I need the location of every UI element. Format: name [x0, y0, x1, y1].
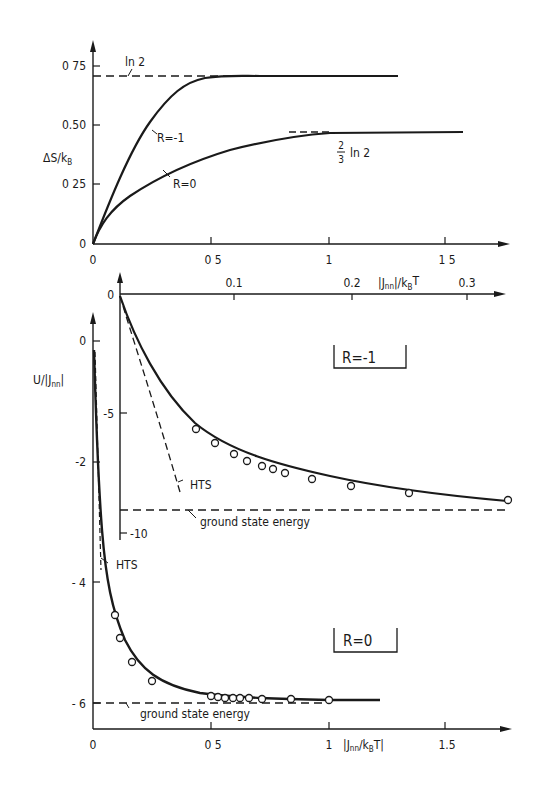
- bottom-hts-label: HTS: [116, 558, 138, 572]
- y-tick-025: 0 25: [62, 177, 86, 191]
- y-axis-arrow-icon: [90, 40, 96, 52]
- inset-y-tick-0: 0: [107, 288, 114, 302]
- curve-r-0: [93, 132, 463, 244]
- bottom-x-tick-15: 1.5: [438, 738, 455, 752]
- bottom-data-points: [112, 612, 333, 704]
- inset-y-tick-minus5: -5: [103, 407, 114, 421]
- y-tick-050: 0.50: [62, 118, 86, 132]
- frac-ln2-label: ln 2: [350, 146, 370, 160]
- inset-data-points: [193, 426, 512, 504]
- entropy-plot: [90, 40, 510, 247]
- inset-ground-state-label: ground state energy: [200, 515, 311, 529]
- frac-denominator: 3: [338, 154, 344, 165]
- inset-y-axis-arrow-icon: [117, 272, 123, 283]
- bottom-y-tick-minus4: - 4: [72, 576, 86, 590]
- figure: 0 0 25 0.50 0 75 ΔS/kB 0 0 5 1 1 5 ln 2 …: [0, 0, 545, 790]
- r-minus-1-box-label: R=-1: [342, 349, 376, 367]
- y-axis-label: ΔS/kB: [43, 151, 72, 167]
- inset-plot-labels: 0.1 0.2 0.3 |Jnn|/kBT 0 -5 -10 HTS groun…: [103, 274, 475, 541]
- inset-x-tick-02: 0.2: [343, 276, 360, 290]
- r-minus-1-label: R=-1: [157, 131, 184, 145]
- bottom-y-tick-0: 0: [79, 334, 86, 348]
- ln2-label: ln 2: [125, 55, 145, 69]
- inset-y-tick-minus10: -10: [130, 527, 148, 541]
- bottom-y-axis-label: U/|Jnn|: [33, 373, 64, 389]
- entropy-plot-labels: 0 0 25 0.50 0 75 ΔS/kB 0 0 5 1 1 5 ln 2 …: [43, 55, 456, 267]
- y-tick-075: 0 75: [62, 59, 86, 73]
- bottom-y-tick-minus6: - 6: [72, 697, 86, 711]
- inset-curve: [120, 296, 507, 501]
- x-tick-15: 1 5: [438, 253, 455, 267]
- x-tick-0: 0: [90, 253, 97, 267]
- inset-x-tick-03: 0.3: [458, 276, 475, 290]
- r-0-box-label: R=0: [343, 632, 372, 650]
- x-tick-05: 0 5: [204, 253, 221, 267]
- bottom-x-axis-label: |Jnn/kBT|: [343, 738, 384, 754]
- bottom-x-axis-arrow-icon: [500, 726, 512, 732]
- frac-numerator: 2: [338, 140, 344, 151]
- inset-hts-label: HTS: [190, 478, 212, 492]
- bottom-x-tick-1: 1: [326, 738, 333, 752]
- bottom-y-tick-minus2: -2: [75, 455, 86, 469]
- inset-x-axis-arrow-icon: [494, 291, 506, 297]
- inset-x-axis-label: |Jnn|/kBT: [378, 274, 419, 292]
- r-0-label: R=0: [173, 177, 197, 191]
- inset-plot: [117, 272, 512, 540]
- y-tick-0: 0: [79, 237, 86, 251]
- inset-hts-line: [120, 296, 180, 492]
- x-axis-arrow-icon: [498, 241, 510, 247]
- bottom-y-axis-arrow-icon: [90, 312, 96, 324]
- bottom-ground-state-label: ground state energy: [140, 707, 251, 721]
- inset-x-tick-01: 0.1: [225, 276, 242, 290]
- bottom-x-tick-05: 0 5: [204, 738, 221, 752]
- bottom-x-tick-0: 0: [90, 738, 97, 752]
- x-tick-1: 1: [326, 253, 333, 267]
